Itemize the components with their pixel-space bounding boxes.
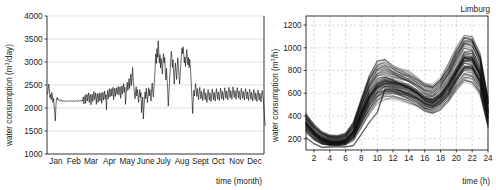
left-x-tick-label: Jan — [49, 157, 63, 166]
left-y-axis-title-tail: /day) — [5, 44, 14, 62]
left-x-axis-title: time (month) — [216, 177, 262, 186]
left-x-tick-label: Mar — [84, 157, 98, 166]
chart-annual-daily-consumption: 1000150020002500300035004000 JanFebMarAp… — [0, 0, 266, 190]
left-x-tick-label: Dec — [247, 157, 262, 166]
left-x-tick-label: Nov — [229, 157, 244, 166]
left-y-tick-label: 3000 — [24, 58, 43, 67]
left-y-axis-title-main: water consumption (m — [5, 65, 14, 147]
left-y-tick-labels: 1000150020002500300035004000 — [24, 12, 47, 159]
right-y-tick-label: 200 — [288, 135, 302, 144]
right-panel-title: Limburg — [460, 5, 490, 14]
right-y-axis-title-tail: /h) — [271, 48, 280, 58]
left-x-tick-label: Feb — [67, 157, 82, 166]
left-x-tick-label: Aug — [175, 157, 190, 166]
left-y-tick-label: 4000 — [24, 12, 43, 21]
right-y-tick-label: 800 — [288, 66, 302, 75]
left-x-tick-label: June — [137, 157, 155, 166]
right-x-tick-label: 6 — [343, 154, 348, 163]
right-y-tick-label: 600 — [288, 89, 302, 98]
right-x-tick-label: 24 — [483, 154, 493, 163]
left-x-tick-label: Oct — [212, 157, 225, 166]
right-x-tick-label: 8 — [359, 154, 364, 163]
right-y-axis-title: water consumption (m3/h) — [270, 48, 280, 143]
left-x-tick-label: Sept — [192, 157, 210, 166]
left-x-tick-labels: JanFebMarAprMayJuneJulyAugSeptOctNovDec — [49, 157, 261, 166]
right-x-tick-label: 18 — [436, 154, 446, 163]
left-x-tick-label: May — [120, 157, 136, 166]
left-y-tick-label: 2500 — [24, 81, 43, 90]
right-x-tick-label: 16 — [420, 154, 430, 163]
right-x-axis-title: time (h) — [462, 177, 490, 186]
right-y-tick-label: 400 — [288, 112, 302, 121]
left-y-tick-label: 3500 — [24, 35, 43, 44]
right-x-tick-label: 20 — [452, 154, 462, 163]
annual-consumption-plot: 1000150020002500300035004000 JanFebMarAp… — [0, 0, 266, 190]
right-x-tick-label: 2 — [312, 154, 317, 163]
right-x-tick-label: 12 — [388, 154, 398, 163]
right-x-tick-label: 22 — [468, 154, 478, 163]
right-y-axis-title-main: water consumption (m — [271, 61, 280, 143]
left-y-tick-label: 2000 — [24, 104, 43, 113]
right-x-tick-label: 10 — [373, 154, 383, 163]
left-x-tick-label: Apr — [103, 157, 116, 166]
right-series-group — [306, 35, 488, 148]
left-x-tick-label: July — [156, 157, 171, 166]
left-y-tick-label: 1500 — [24, 127, 43, 136]
left-y-axis-title: water consumption (m3/day) — [4, 44, 14, 147]
right-y-tick-label: 1200 — [283, 21, 302, 30]
chart-limburg-daily-profiles: 20040060080010001200 2468101214161820222… — [266, 0, 496, 190]
left-y-tick-label: 1000 — [24, 150, 43, 159]
figure-container: 1000150020002500300035004000 JanFebMarAp… — [0, 0, 496, 190]
right-y-tick-labels: 20040060080010001200 — [283, 21, 306, 144]
right-y-tick-label: 1000 — [283, 44, 302, 53]
right-x-tick-label: 4 — [327, 154, 332, 163]
right-x-tick-label: 14 — [404, 154, 414, 163]
left-series-path — [48, 41, 266, 126]
left-gridlines — [47, 16, 264, 131]
left-series-group — [48, 41, 266, 126]
right-x-tick-labels: 24681012141618202224 — [312, 150, 493, 163]
limburg-profiles-plot: 20040060080010001200 2468101214161820222… — [266, 0, 496, 190]
